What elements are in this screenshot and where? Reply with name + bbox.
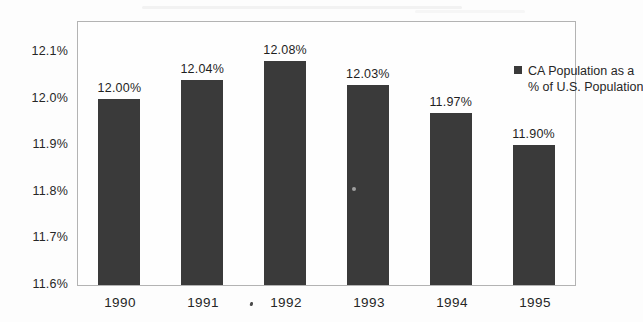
bar-column-1990: 12.00%	[78, 22, 161, 285]
legend: CA Population as a % of U.S. Population	[514, 63, 643, 95]
bar-column-1992: 12.08%	[244, 22, 327, 285]
y-tick-label-12.1%: 12.1%	[32, 44, 68, 58]
bar-1990	[98, 99, 140, 285]
scan-smudge	[142, 6, 462, 9]
bar-value-label-1994: 11.97%	[429, 95, 472, 109]
y-tick-label-11.7%: 11.7%	[32, 230, 68, 244]
bars-container: 12.00%12.04%12.08%12.03%11.97%11.90%	[78, 22, 575, 285]
scan-speck	[249, 302, 253, 307]
y-axis: 11.6%11.7%11.8%11.9%12.0%12.1%	[0, 0, 68, 322]
y-tick-label-11.6%: 11.6%	[32, 277, 68, 291]
bar-column-1994: 11.97%	[409, 22, 492, 285]
plot-area: 12.00%12.04%12.08%12.03%11.97%11.90% CA …	[77, 21, 576, 286]
legend-label-line2: % of U.S. Population	[528, 79, 643, 95]
y-tick-label-11.9%: 11.9%	[32, 137, 68, 151]
bar-column-1995: 11.90%	[492, 22, 575, 285]
bar-value-label-1991: 12.04%	[180, 62, 224, 76]
bar-value-label-1990: 12.00%	[98, 81, 142, 95]
x-tick-label-1993: 1993	[353, 295, 385, 310]
bar-value-label-1992: 12.08%	[263, 43, 307, 57]
scan-smudge	[415, 10, 525, 13]
bar-1993	[347, 85, 389, 285]
x-tick-label-1992: 1992	[270, 295, 302, 310]
scan-speck	[352, 187, 356, 191]
bar-1992	[264, 61, 306, 285]
legend-label: CA Population as a % of U.S. Population	[528, 63, 643, 95]
x-tick-label-1994: 1994	[436, 295, 468, 310]
bar-1991	[181, 80, 223, 285]
bar-value-label-1993: 12.03%	[346, 67, 390, 81]
bar-value-label-1995: 11.90%	[512, 127, 555, 141]
legend-square-marker-icon	[514, 66, 522, 74]
y-tick-label-12.0%: 12.0%	[32, 91, 68, 105]
legend-label-line1: CA Population as a	[528, 63, 643, 79]
bar-column-1991: 12.04%	[161, 22, 244, 285]
x-tick-label-1991: 1991	[187, 295, 219, 310]
x-tick-label-1990: 1990	[104, 295, 136, 310]
x-tick-label-1995: 1995	[519, 295, 551, 310]
y-tick-label-11.8%: 11.8%	[32, 184, 68, 198]
bar-column-1993: 12.03%	[326, 22, 409, 285]
bar-1995	[513, 145, 555, 285]
bar-1994	[430, 113, 472, 285]
